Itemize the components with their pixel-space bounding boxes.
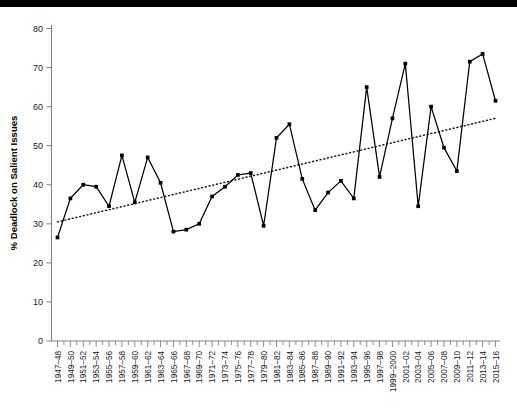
x-tick-label: 1989–90	[324, 351, 333, 383]
data-point-marker	[210, 195, 214, 199]
data-point-marker	[94, 185, 98, 189]
data-point-marker	[172, 230, 176, 234]
x-tick-label: 2009–10	[453, 351, 462, 383]
data-point-marker	[326, 191, 330, 195]
x-tick-label: 1981–82	[273, 351, 282, 383]
y-tick-label: 50	[33, 141, 43, 151]
data-point-marker	[378, 175, 382, 179]
data-point-marker	[339, 179, 343, 183]
data-point-marker	[275, 136, 279, 140]
x-tick-label: 2015–16	[492, 351, 501, 383]
x-tick-label: 2005–06	[427, 351, 436, 383]
top-black-bar	[0, 0, 517, 7]
x-tick-label: 1977–78	[247, 351, 256, 383]
data-point-marker	[56, 236, 60, 240]
data-point-marker	[300, 177, 304, 181]
data-point-marker	[429, 105, 433, 109]
data-point-marker	[249, 171, 253, 175]
x-tick-label: 1991–92	[337, 351, 346, 383]
x-tick-label: 1957–58	[118, 351, 127, 383]
y-tick-label: 60	[33, 102, 43, 112]
x-tick-label: 2011–12	[466, 351, 475, 383]
trend-line	[58, 118, 496, 222]
y-axis-title: % Deadlock on Salient Issues	[8, 116, 19, 251]
data-point-marker	[262, 224, 266, 228]
data-point-marker	[133, 200, 137, 204]
data-point-marker	[197, 222, 201, 226]
data-point-marker	[288, 122, 292, 126]
data-point-marker	[416, 204, 420, 208]
y-tick-label: 30	[33, 219, 43, 229]
x-tick-group: 1947–481949–501951–521953–541955–561957–…	[54, 341, 501, 392]
x-tick-label: 1963–64	[157, 351, 166, 383]
x-tick-label: 1949–50	[67, 351, 76, 383]
data-point-marker	[365, 85, 369, 89]
y-tick-label: 10	[33, 297, 43, 307]
x-tick-label: 1947–48	[54, 351, 63, 383]
x-tick-label: 1953–54	[92, 351, 101, 383]
x-tick-label: 2001–02	[402, 351, 411, 383]
data-point-marker	[481, 52, 485, 56]
data-point-marker	[468, 60, 472, 64]
x-tick-label: 1973–74	[221, 351, 230, 383]
series-line-deadlock	[58, 54, 496, 238]
x-tick-label: 1995–96	[363, 351, 372, 383]
x-tick-label: 1969–70	[195, 351, 204, 383]
data-point-marker	[455, 169, 459, 173]
x-tick-label: 1987–88	[311, 351, 320, 383]
chart-container: 01020304050607080 1947–481949–501951–521…	[0, 7, 517, 413]
series-markers	[56, 52, 498, 239]
data-point-marker	[494, 99, 498, 103]
data-point-marker	[107, 204, 111, 208]
x-tick-label: 1983–84	[286, 351, 295, 383]
data-point-marker	[313, 208, 317, 212]
x-tick-label: 1971–72	[208, 351, 217, 383]
data-point-marker	[81, 183, 85, 187]
x-tick-label: 1993–94	[350, 351, 359, 383]
data-point-marker	[391, 116, 395, 120]
data-point-marker	[69, 197, 73, 201]
x-tick-label: 1967–68	[183, 351, 192, 383]
y-tick-label: 80	[33, 24, 43, 34]
data-point-marker	[159, 181, 163, 185]
x-tick-label: 1997–98	[376, 351, 385, 383]
y-tick-label: 40	[33, 180, 43, 190]
x-tick-label: 1965–66	[170, 351, 179, 383]
x-tick-label: 1961–62	[144, 351, 153, 383]
x-tick-label: 1999–2000	[389, 351, 398, 392]
data-point-marker	[223, 185, 227, 189]
x-tick-label: 2007–08	[440, 351, 449, 383]
y-tick-label: 0	[38, 336, 43, 346]
data-point-marker	[146, 156, 150, 160]
data-point-marker	[403, 62, 407, 66]
data-point-marker	[442, 146, 446, 150]
deadlock-line-chart: 01020304050607080 1947–481949–501951–521…	[0, 7, 517, 413]
data-point-marker	[352, 197, 356, 201]
y-tick-label: 70	[33, 63, 43, 73]
y-tick-group: 01020304050607080	[33, 24, 52, 347]
x-tick-label: 2013–14	[479, 351, 488, 383]
x-tick-label: 1975–76	[234, 351, 243, 383]
x-tick-label: 1959–60	[131, 351, 140, 383]
y-tick-label: 20	[33, 258, 43, 268]
x-tick-label: 1955–56	[105, 351, 114, 383]
x-tick-label: 1985–86	[298, 351, 307, 383]
data-point-marker	[120, 154, 124, 158]
x-tick-label: 2003–04	[414, 351, 423, 383]
data-point-marker	[236, 173, 240, 177]
data-point-marker	[184, 228, 188, 232]
x-tick-label: 1979–80	[260, 351, 269, 383]
x-tick-label: 1951–52	[79, 351, 88, 383]
